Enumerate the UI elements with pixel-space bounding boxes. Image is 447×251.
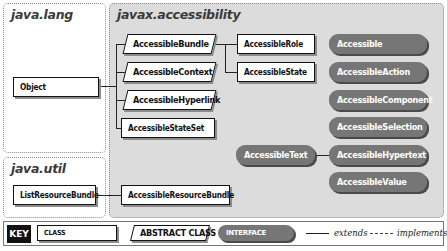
class-list-resource-bundle[interactable]: ListResourceBundle xyxy=(13,185,96,205)
class-accessible-resource-bundle[interactable]: AccessibleResourceBundle xyxy=(121,185,230,205)
interface-label: AccessibleSelection xyxy=(337,122,423,132)
connector-line xyxy=(99,86,117,87)
package-title: javax.accessibility xyxy=(117,7,240,22)
class-accessible-state[interactable]: AccessibleState xyxy=(237,62,315,82)
interface-label: AccessibleText xyxy=(244,150,307,160)
key-class-label: CLASS xyxy=(44,229,65,237)
class-label: AccessibleState xyxy=(244,67,307,77)
interface-label: AccessibleHypertext xyxy=(337,150,426,160)
abstract-class-accessible-hyperlink[interactable]: AccessibleHyperlink xyxy=(125,90,214,110)
class-label: AccessibleContext xyxy=(133,62,212,82)
abstract-class-accessible-bundle[interactable]: AccessibleBundle xyxy=(125,34,214,54)
implements-line-sample xyxy=(370,233,393,234)
class-label: Object xyxy=(20,82,46,92)
interface-accessible-text[interactable]: AccessibleText xyxy=(236,145,315,165)
interface-accessible-selection[interactable]: AccessibleSelection xyxy=(329,117,427,137)
key-implements-label: implements xyxy=(397,228,447,238)
class-accessible-role[interactable]: AccessibleRole xyxy=(237,34,315,54)
class-label: AccessibleRole xyxy=(244,39,303,49)
connector-line xyxy=(214,44,238,45)
key-interface-sample: INTERFACE xyxy=(218,225,294,241)
interface-accessible-hypertext[interactable]: AccessibleHypertext xyxy=(329,145,427,165)
class-label: ListResourceBundle xyxy=(20,190,99,200)
class-accessible-state-set[interactable]: AccessibleStateSet xyxy=(121,118,215,138)
package-title: java.util xyxy=(11,161,66,176)
connector-line xyxy=(315,155,329,156)
interface-accessible[interactable]: Accessible xyxy=(329,34,427,54)
extends-line-sample xyxy=(306,233,329,234)
key-abstract-class-sample: ABSTRACT CLASS xyxy=(132,225,208,241)
class-label: AccessibleResourceBundle xyxy=(128,190,234,200)
interface-label: AccessibleAction xyxy=(337,67,410,77)
interface-accessible-value[interactable]: AccessibleValue xyxy=(329,172,427,192)
class-label: AccessibleStateSet xyxy=(128,123,204,133)
connector-line xyxy=(116,44,117,129)
class-label: AccessibleBundle xyxy=(133,34,209,54)
key-label: KEY xyxy=(7,225,31,243)
interface-label: AccessibleValue xyxy=(337,177,406,187)
abstract-class-accessible-context[interactable]: AccessibleContext xyxy=(125,62,214,82)
key-abstract-class-label: ABSTRACT CLASS xyxy=(140,225,216,241)
connector-line xyxy=(96,195,122,196)
interface-label: AccessibleComponent xyxy=(337,95,432,105)
connector-line xyxy=(225,44,226,72)
key-class-sample: CLASS xyxy=(37,225,117,241)
interface-accessible-action[interactable]: AccessibleAction xyxy=(329,62,427,82)
class-label: AccessibleHyperlink xyxy=(133,90,220,110)
key-extends-label: extends xyxy=(334,228,368,238)
class-object[interactable]: Object xyxy=(13,77,99,97)
interface-accessible-component[interactable]: AccessibleComponent xyxy=(329,90,427,110)
key-interface-label: INTERFACE xyxy=(226,229,266,237)
interface-label: Accessible xyxy=(337,39,382,49)
legend-key: KEY CLASS ABSTRACT CLASS INTERFACE exten… xyxy=(3,221,444,246)
package-title: java.lang xyxy=(11,7,73,22)
